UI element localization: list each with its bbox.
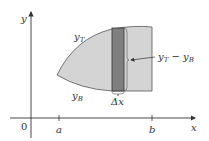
area-between-curves-diagram: y x 0 a b yT yB Δx yT − yB	[0, 0, 209, 141]
approximating-strip	[112, 28, 124, 91]
origin-label: 0	[21, 121, 27, 132]
top-curve-label: yT	[73, 31, 86, 44]
x-axis-label: x	[191, 122, 197, 133]
y-axis-label: y	[20, 13, 27, 24]
tick-label-a: a	[56, 124, 62, 135]
tick-label-b: b	[149, 124, 155, 135]
region-shape	[57, 26, 152, 91]
delta-x-label: Δx	[110, 96, 124, 107]
height-label: yT − yB	[157, 51, 194, 64]
bottom-curve-label: yB	[71, 90, 83, 103]
